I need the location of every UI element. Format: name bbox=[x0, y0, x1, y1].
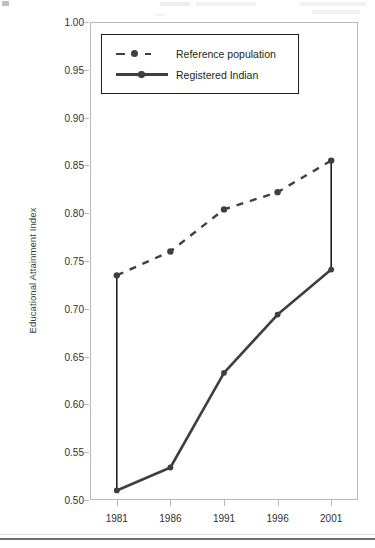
legend-label-registered-indian: Registered Indian bbox=[176, 69, 258, 81]
footer-divider-soft bbox=[0, 534, 375, 535]
x-tick-label: 1986 bbox=[140, 513, 200, 524]
series-line-reference-population bbox=[117, 161, 331, 276]
x-tick-label: 1996 bbox=[248, 513, 308, 524]
data-point-marker bbox=[328, 157, 334, 163]
x-tick-mark bbox=[278, 500, 279, 506]
x-tick-mark bbox=[170, 500, 171, 506]
chart-page: Educational Attainment Index 0.500.550.6… bbox=[0, 0, 375, 548]
x-tick-mark bbox=[224, 500, 225, 506]
data-point-marker bbox=[275, 312, 281, 318]
legend-swatch-solid-icon bbox=[114, 69, 170, 81]
series-line-registered-indian bbox=[117, 270, 331, 491]
data-point-marker bbox=[221, 206, 227, 212]
data-point-marker bbox=[221, 370, 227, 376]
data-point-marker bbox=[328, 267, 334, 273]
chart-legend: Reference population Registered Indian bbox=[101, 34, 299, 94]
data-point-marker bbox=[168, 465, 174, 471]
footer-divider bbox=[0, 538, 375, 540]
legend-label-reference-population: Reference population bbox=[176, 48, 276, 60]
data-point-marker bbox=[274, 189, 280, 195]
x-tick-mark bbox=[117, 500, 118, 506]
x-tick-label: 1981 bbox=[87, 513, 147, 524]
x-tick-label: 2001 bbox=[301, 513, 361, 524]
legend-swatch-dashed-icon bbox=[114, 48, 170, 60]
legend-item-reference-population: Reference population bbox=[114, 43, 298, 64]
data-point-marker bbox=[114, 488, 120, 494]
legend-item-registered-indian: Registered Indian bbox=[114, 64, 298, 85]
x-tick-label: 1991 bbox=[194, 513, 254, 524]
data-point-marker bbox=[167, 248, 173, 254]
data-point-marker bbox=[114, 272, 120, 278]
x-tick-mark bbox=[331, 500, 332, 506]
